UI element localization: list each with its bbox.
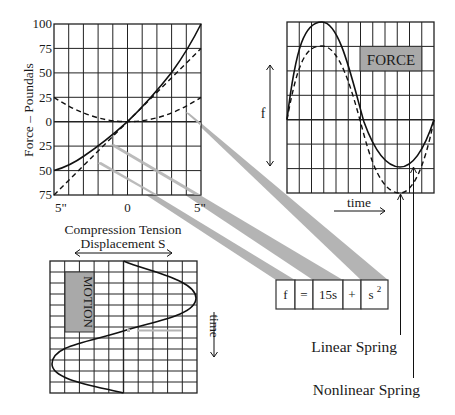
x-axis-label-line2: Displacement S [80,236,165,251]
nonlinear-spring-label: Nonlinear Spring [313,381,420,398]
force-label: FORCE [367,52,415,68]
motion-center-dot [127,329,130,332]
y-axis-label: Force – Poundals [21,63,36,157]
y-tick: 50 [39,163,52,178]
y-tick: 100 [33,16,53,31]
x-tick: 5" [194,200,206,215]
y-tick: 50 [39,65,52,80]
equation-term: 15s [319,287,337,302]
y-tick: 75 [39,187,52,202]
x-tick: 0 [124,200,131,215]
y-tick: 25 [39,90,52,105]
motion-label: MOTION [81,276,96,329]
motion-chart: MOTION time [50,261,222,393]
force-displacement-chart: 100 75 50 25 0 25 50 75 Force – Poundals… [21,16,206,257]
equation-term: s [368,287,373,302]
time-axis-label: time [347,195,371,210]
x-tick: 5" [55,200,67,215]
force-double-arrow-icon [267,65,274,166]
force-time-chart: FORCE f time [261,22,434,215]
callout-lines [398,167,417,378]
equation-exponent: 2 [377,284,382,294]
equation-box: f = 15s + s 2 [276,280,388,309]
motion-center-marker [137,330,182,332]
y-tick: 25 [39,138,52,153]
linear-spring-label: Linear Spring [311,338,397,355]
force-axis-label: f [261,106,266,121]
y-tick: 75 [39,41,52,56]
equation-term: = [300,287,307,302]
equation-term: f [283,287,288,302]
equation-cell-s2 [361,280,388,309]
y-tick: 0 [46,114,53,129]
equation-term: + [348,287,355,302]
x-axis-label-line1: Compression Tension [65,222,182,237]
spring-diagram: 100 75 50 25 0 25 50 75 Force – Poundals… [0,0,455,415]
